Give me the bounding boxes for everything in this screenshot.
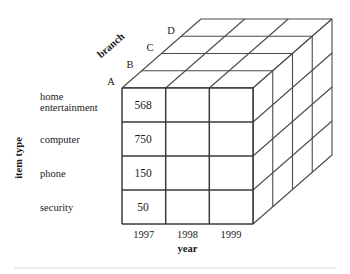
item-type-tick-home-entertainment-line1: home: [40, 91, 64, 102]
item-type-tick-phone: phone: [40, 168, 66, 179]
item-type-tick-computer: computer: [40, 134, 80, 145]
year-tick-1999: 1999: [221, 229, 242, 240]
cell-value-computer-1997: 750: [134, 133, 152, 145]
axis-title-item-type: item type: [13, 137, 24, 179]
year-tick-1998: 1998: [177, 229, 198, 240]
branch-tick-c: C: [146, 42, 153, 53]
year-tick-1997: 1997: [133, 229, 154, 240]
item-type-tick-security: security: [40, 202, 74, 213]
axis-title-year: year: [178, 243, 198, 254]
branch-tick-b: B: [126, 59, 133, 70]
cell-value-home-entertainment-1997: 568: [134, 99, 152, 111]
branch-tick-d: D: [167, 25, 175, 36]
cube-diagram: 568 750 150 50 home entertainment comput…: [0, 0, 350, 274]
year-tick-labels: 1997 1998 1999: [133, 229, 241, 240]
cell-value-phone-1997: 150: [134, 167, 152, 179]
axis-title-branch: branch: [95, 31, 127, 60]
item-type-tick-home-entertainment-line2: entertainment: [40, 102, 98, 113]
branch-tick-a: A: [107, 76, 115, 87]
item-type-tick-labels: home entertainment computer phone securi…: [40, 91, 98, 213]
data-cube-figure: 568 750 150 50 home entertainment comput…: [0, 0, 350, 274]
cell-value-security-1997: 50: [137, 201, 149, 213]
